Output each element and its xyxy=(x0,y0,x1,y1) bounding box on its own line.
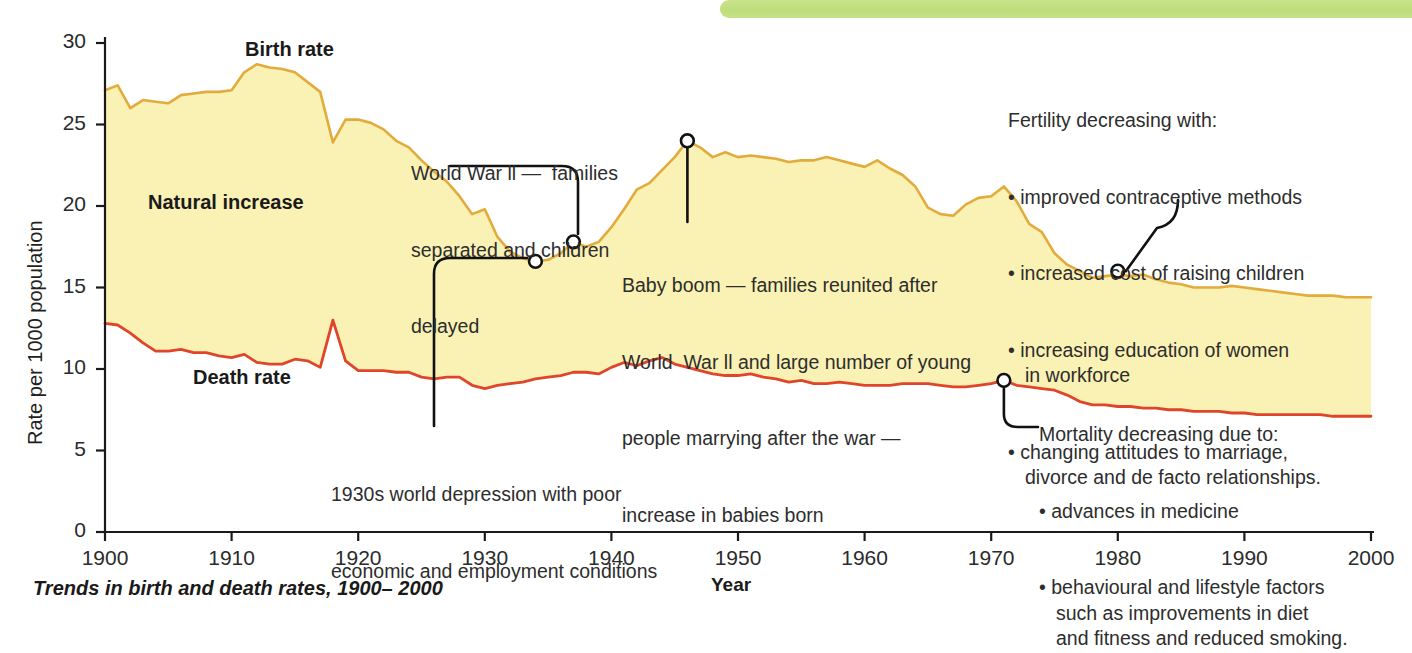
annotation-ww2-line-3: delayed xyxy=(411,314,618,340)
y-tick-label: 30 xyxy=(0,29,86,53)
annotation-ww2-line-2: separated and children xyxy=(411,238,618,264)
annotation-babyboom-line-2: World War ll and large number of young xyxy=(622,350,971,376)
annotation-mortality-title: Mortality decreasing due to: xyxy=(1039,422,1348,448)
annotation-mortality-bullet-1: • advances in medicine xyxy=(1039,499,1348,525)
annotation-depression-line-1: 1930s world depression with poor xyxy=(331,482,657,508)
bullet-text: increased cost of raising children xyxy=(1020,262,1304,284)
annotation-mortality-bullet-2: • behavioural and lifestyle factorssuch … xyxy=(1039,575,1348,652)
annotation-ww2-line-1: World War ll — families xyxy=(411,161,618,187)
y-tick-label: 0 xyxy=(0,518,86,542)
death-rate-label: Death rate xyxy=(193,366,291,389)
annotation-fertility-bullet-2: • increased cost of raising children xyxy=(1008,261,1321,287)
x-tick-label: 1910 xyxy=(192,546,272,570)
annotation-babyboom-line-4: increase in babies born xyxy=(622,503,971,529)
x-tick-label: 1900 xyxy=(65,546,145,570)
annotation-depression: 1930s world depression with poor economi… xyxy=(331,431,657,635)
bullet-text: improved contraceptive methods xyxy=(1020,186,1302,208)
marker-baby-boom xyxy=(681,134,694,147)
annotation-world-war-2: World War ll — families separated and ch… xyxy=(411,110,618,391)
annotation-depression-line-2: economic and employment conditions xyxy=(331,559,657,585)
annotation-babyboom-line-3: people marrying after the war — xyxy=(622,426,971,452)
annotation-fertility-title: Fertility decreasing with: xyxy=(1008,108,1321,134)
y-axis-title: Rate per 1000 population xyxy=(24,220,47,445)
natural-increase-label: Natural increase xyxy=(148,191,304,214)
annotation-babyboom-line-1: Baby boom — families reunited after xyxy=(622,273,971,299)
annotation-mortality: Mortality decreasing due to: • advances … xyxy=(1039,371,1348,653)
annotation-fertility-bullet-1: • improved contraceptive methods xyxy=(1008,185,1321,211)
y-tick-label: 20 xyxy=(0,192,86,216)
y-tick-label: 25 xyxy=(0,111,86,135)
annotation-baby-boom: Baby boom — families reunited after Worl… xyxy=(622,222,971,579)
birth-rate-label: Birth rate xyxy=(245,38,334,61)
bullet-text: advances in medicine xyxy=(1051,500,1239,522)
bullet-text: behavioural and lifestyle factorssuch as… xyxy=(1051,576,1347,649)
